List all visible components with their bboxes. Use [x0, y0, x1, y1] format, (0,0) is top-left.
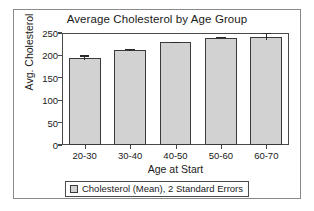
- x-tick-mark: [266, 145, 267, 149]
- error-bar-cap: [216, 37, 226, 38]
- bars-layer: [62, 33, 289, 145]
- bar-group: [250, 33, 282, 145]
- y-tick-label: 0: [0, 140, 58, 151]
- x-tick-mark: [85, 145, 86, 149]
- chart-figure: Average Cholesterol by Age Group 0501001…: [0, 0, 314, 211]
- chart-legend: Cholesterol (Mean), 2 Standard Errors: [65, 181, 249, 197]
- error-bar-cap: [125, 49, 135, 50]
- x-tick-label: 20-30: [73, 150, 97, 161]
- x-tick-label: 60-70: [254, 150, 278, 161]
- legend-swatch-icon: [70, 185, 78, 193]
- error-bar-cap: [171, 42, 181, 43]
- chart-title: Average Cholesterol by Age Group: [13, 13, 301, 25]
- x-tick-label: 50-60: [209, 150, 233, 161]
- bar[interactable]: [160, 42, 192, 145]
- x-tick-mark: [176, 145, 177, 149]
- x-tick-mark: [130, 145, 131, 149]
- error-bar-cap: [80, 55, 90, 56]
- x-tick-label: 40-50: [163, 150, 187, 161]
- error-bar-cap: [262, 33, 272, 34]
- x-axis-title: Age at Start: [62, 163, 289, 175]
- legend-label: Cholesterol (Mean), 2 Standard Errors: [82, 183, 243, 194]
- y-tick-label: 50: [0, 117, 58, 128]
- bar-group: [160, 33, 192, 145]
- y-axis-title: Avg. Cholesterol: [23, 0, 35, 117]
- bar[interactable]: [250, 37, 282, 145]
- x-tick-mark: [221, 145, 222, 149]
- bar[interactable]: [114, 50, 146, 145]
- bar[interactable]: [205, 38, 237, 145]
- x-tick-label: 30-40: [118, 150, 142, 161]
- bar-group: [114, 33, 146, 145]
- bar[interactable]: [69, 58, 101, 145]
- bar-group: [205, 33, 237, 145]
- bar-group: [69, 33, 101, 145]
